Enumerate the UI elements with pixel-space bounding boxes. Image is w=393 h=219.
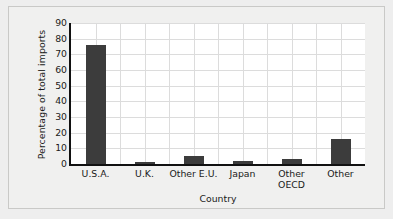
y-tick-label: 10 <box>45 144 67 153</box>
y-tick-label: 30 <box>45 112 67 121</box>
x-tick-label: Other E.U. <box>169 168 218 179</box>
x-tick-label: Japan <box>218 168 267 179</box>
x-tick-label: U.S.A. <box>71 168 120 179</box>
bar <box>282 159 302 164</box>
bar <box>233 161 253 164</box>
x-tick-label: Other OECD <box>267 168 316 190</box>
bar <box>331 139 351 164</box>
bar-slot <box>267 23 316 164</box>
x-tick-label: Other <box>316 168 365 179</box>
y-tick-label: 20 <box>45 128 67 137</box>
x-tick-label: U.K. <box>120 168 169 179</box>
y-tick-label: 60 <box>45 65 67 74</box>
bar <box>184 156 204 164</box>
x-axis-title: Country <box>71 193 365 204</box>
y-tick-label: 40 <box>45 97 67 106</box>
y-tick-label: 80 <box>45 34 67 43</box>
y-tick-label: 90 <box>45 18 67 27</box>
figure: Percentage of total imports 010203040506… <box>0 0 393 219</box>
y-tick-label: 50 <box>45 81 67 90</box>
bar-slot <box>169 23 218 164</box>
y-tick-label: 0 <box>45 159 67 168</box>
y-axis-tick-labels: 0102030405060708090 <box>45 23 67 164</box>
y-tick-label: 70 <box>45 50 67 59</box>
bar <box>135 162 155 164</box>
bar <box>86 45 106 164</box>
figure-frame: Percentage of total imports 010203040506… <box>8 6 385 209</box>
bar-series <box>71 23 365 164</box>
bar-slot <box>71 23 120 164</box>
bar-slot <box>218 23 267 164</box>
bar-slot <box>316 23 365 164</box>
bar-slot <box>120 23 169 164</box>
